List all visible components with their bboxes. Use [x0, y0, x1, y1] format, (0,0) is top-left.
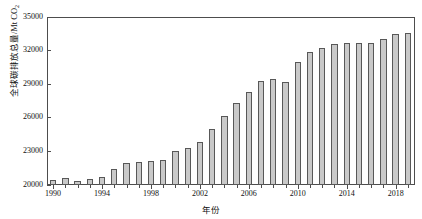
plot-top-border: [47, 17, 415, 18]
x-axis-tick-label: 2002: [180, 189, 220, 198]
bar: [295, 62, 301, 185]
bar: [392, 34, 398, 185]
bar: [197, 142, 203, 185]
bar: [136, 162, 142, 185]
x-axis-tick-minor: [212, 185, 213, 188]
y-axis-tick-label: 26000: [0, 113, 43, 121]
y-axis-tick: [47, 117, 51, 118]
x-axis-tick-minor: [261, 185, 262, 188]
x-axis-tick-minor: [175, 185, 176, 188]
x-axis-tick-minor: [224, 185, 225, 188]
bar: [221, 116, 227, 185]
y-axis-tick: [47, 50, 51, 51]
x-axis-tick-minor: [237, 185, 238, 188]
bar: [160, 160, 166, 185]
x-axis-tick-minor: [359, 185, 360, 188]
x-axis-tick-minor: [65, 185, 66, 188]
bar: [258, 81, 264, 185]
x-axis-tick-minor: [127, 185, 128, 188]
bar: [331, 44, 337, 185]
bar: [99, 177, 105, 185]
y-axis-title-subscript: 2: [14, 5, 20, 8]
bar: [111, 169, 117, 185]
bar: [123, 163, 129, 185]
x-axis-tick-label: 1994: [82, 189, 122, 198]
x-axis-tick-label: 2018: [376, 189, 416, 198]
bar: [270, 79, 276, 185]
bar: [319, 48, 325, 185]
y-axis-tick-label: 32000: [0, 46, 43, 54]
y-axis-tick: [47, 17, 51, 18]
x-axis-tick-minor: [114, 185, 115, 188]
x-axis-tick-minor: [310, 185, 311, 188]
x-axis-tick-minor: [139, 185, 140, 188]
x-axis-tick-minor: [273, 185, 274, 188]
x-axis-tick-label: 2006: [229, 189, 269, 198]
x-axis-tick-minor: [322, 185, 323, 188]
x-axis-tick-minor: [286, 185, 287, 188]
x-axis-tick-label: 2010: [278, 189, 318, 198]
bar: [368, 43, 374, 185]
x-axis-tick-label: 1998: [131, 189, 171, 198]
y-axis-tick-label: 23000: [0, 147, 43, 155]
x-axis-tick-minor: [78, 185, 79, 188]
bar: [405, 33, 411, 185]
bar: [380, 39, 386, 185]
bar: [246, 92, 252, 185]
bar: [172, 151, 178, 185]
x-axis-tick-minor: [334, 185, 335, 188]
bar: [62, 178, 68, 185]
bar: [356, 43, 362, 185]
y-axis-tick-label: 29000: [0, 80, 43, 88]
bar: [344, 43, 350, 185]
plot-right-border: [414, 17, 415, 185]
bar: [282, 82, 288, 185]
bar: [307, 52, 313, 185]
bar: [209, 129, 215, 185]
y-axis-tick-label: 35000: [0, 13, 43, 21]
y-axis-tick-label: 20000: [0, 181, 43, 189]
y-axis-tick: [47, 84, 51, 85]
x-axis-tick-minor: [371, 185, 372, 188]
x-axis-tick-label: 1990: [33, 189, 73, 198]
x-axis-title: 年份: [0, 203, 422, 215]
bar: [148, 161, 154, 185]
y-axis-tick: [47, 151, 51, 152]
x-axis-tick-minor: [408, 185, 409, 188]
x-axis-tick-label: 2014: [327, 189, 367, 198]
x-axis-tick-minor: [383, 185, 384, 188]
bar: [185, 148, 191, 185]
x-axis-tick-minor: [90, 185, 91, 188]
bar: [233, 103, 239, 185]
x-axis-tick-minor: [163, 185, 164, 188]
x-axis-tick-minor: [188, 185, 189, 188]
bar-chart-figure: 全球碳排放总量/Mt CO2 2000023000260002900032000…: [0, 0, 422, 219]
